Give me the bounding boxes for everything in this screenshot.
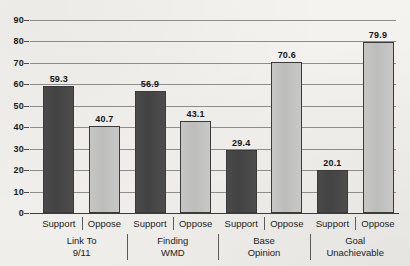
- group-label-line2: Opinion: [219, 247, 309, 259]
- y-axis-label: 70: [0, 58, 24, 68]
- y-axis-tick: [24, 84, 29, 85]
- gridline: [30, 20, 396, 21]
- x-axis-labels: SupportOpposeSupportOpposeSupportOpposeS…: [30, 214, 399, 266]
- y-axis-tick: [24, 192, 29, 193]
- plot-area: 59.340.756.943.129.470.620.179.9: [30, 14, 396, 213]
- label-separator: [355, 217, 356, 230]
- y-axis-label: 30: [0, 144, 24, 154]
- bar-value-label: 70.6: [267, 50, 307, 60]
- label-separator: [264, 217, 265, 230]
- group-label-line1: Finding: [128, 235, 218, 247]
- group-label-1: FindingWMD: [128, 235, 218, 258]
- group-label-line2: WMD: [128, 247, 218, 259]
- y-axis-label: 80: [0, 36, 24, 46]
- bar-chart: 9080706050403020100 59.340.756.943.129.4…: [0, 0, 410, 266]
- y-axis-label: 10: [0, 187, 24, 197]
- gridline: [30, 84, 396, 85]
- group-label-3: GoalUnachievable: [310, 235, 400, 258]
- group-label-line1: Base: [219, 235, 309, 247]
- bar-support-2: [226, 150, 257, 213]
- y-axis-label: 50: [0, 101, 24, 111]
- bar-value-label: 20.1: [312, 158, 352, 168]
- group-label-line1: Link To: [37, 235, 127, 247]
- bar-support-3: [317, 170, 348, 213]
- bar-value-label: 79.9: [358, 30, 398, 40]
- group-label-line2: Unachievable: [310, 247, 400, 259]
- y-axis-tick: [24, 41, 29, 42]
- group-label-line2: 9/11: [37, 247, 127, 259]
- series-tick-label: Support: [35, 218, 83, 229]
- bar-value-label: 56.9: [130, 79, 170, 89]
- bar-value-label: 43.1: [176, 109, 216, 119]
- y-axis-label: 60: [0, 79, 24, 89]
- bar-value-label: 59.3: [39, 74, 79, 84]
- series-tick-label: Oppose: [80, 218, 128, 229]
- bar-oppose-2: [271, 62, 302, 213]
- y-axis-tick: [24, 149, 29, 150]
- series-tick-label: Oppose: [354, 218, 402, 229]
- gridline: [30, 41, 396, 42]
- series-tick-label: Oppose: [172, 218, 220, 229]
- group-separator: [127, 234, 128, 260]
- bar-value-label: 40.7: [84, 114, 124, 124]
- y-axis-tick: [24, 127, 29, 128]
- gridline: [30, 149, 396, 150]
- group-label-2: BaseOpinion: [219, 235, 309, 258]
- gridline: [30, 63, 396, 64]
- group-separator: [310, 234, 311, 260]
- y-axis-tick: [24, 213, 29, 214]
- bar-oppose-3: [363, 42, 394, 213]
- y-axis-tick: [24, 106, 29, 107]
- series-tick-label: Oppose: [263, 218, 311, 229]
- y-axis-tick: [24, 170, 29, 171]
- group-label-0: Link To9/11: [37, 235, 127, 258]
- group-separator: [218, 234, 219, 260]
- y-axis-label: 90: [0, 15, 24, 25]
- y-axis-label: 40: [0, 122, 24, 132]
- label-separator: [173, 217, 174, 230]
- y-axis-tick: [24, 20, 29, 21]
- bar-support-1: [135, 91, 166, 213]
- gridline: [30, 106, 396, 107]
- y-axis-label: 0: [0, 208, 24, 218]
- bar-oppose-0: [89, 126, 120, 213]
- y-axis-tick: [24, 63, 29, 64]
- series-tick-label: Support: [217, 218, 265, 229]
- group-label-line1: Goal: [310, 235, 400, 247]
- bar-value-label: 29.4: [221, 138, 261, 148]
- label-separator: [82, 217, 83, 230]
- gridline: [30, 127, 396, 128]
- bar-support-0: [43, 86, 74, 213]
- series-tick-label: Support: [308, 218, 356, 229]
- bar-oppose-1: [180, 121, 211, 213]
- series-tick-label: Support: [126, 218, 174, 229]
- y-axis-label: 20: [0, 165, 24, 175]
